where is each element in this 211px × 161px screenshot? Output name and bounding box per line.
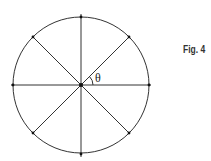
- theta-label: θ: [95, 71, 101, 86]
- angle-arc: [90, 77, 94, 86]
- figure-caption: Fig. 4: [183, 44, 205, 55]
- circle-diagram: [0, 0, 211, 161]
